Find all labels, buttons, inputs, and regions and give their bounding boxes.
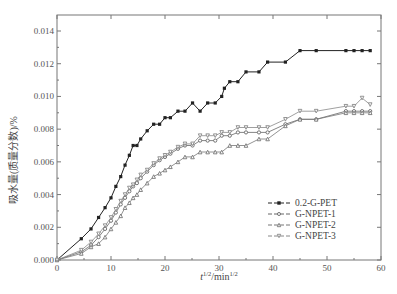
legend: 0.2-G-PETG-NPET-1G-NPET-2G-NPET-3 [268,198,337,241]
y-tick-label: 0.000 [34,255,55,265]
y-tick-label: 0.010 [34,91,55,101]
y-axis-title: 吸水量(质量分数)/% [7,116,20,204]
y-tick-label: 0.012 [34,59,54,69]
legend-item: G-NPET-3 [268,231,336,241]
x-tick-label: 40 [269,263,279,273]
x-tick-label: 50 [323,263,333,273]
legend-label: G-NPET-1 [295,209,336,219]
x-tick-label: 20 [161,263,171,273]
legend-item: G-NPET-1 [268,209,336,219]
x-tick-label: 60 [377,263,387,273]
y-tick-label: 0.008 [34,124,55,134]
x-axis-title: t1/2/min1/2 [200,270,238,282]
legend-item: G-NPET-2 [268,220,336,230]
y-tick-label: 0.006 [34,157,55,167]
y-tick-label: 0.004 [34,190,55,200]
y-tick-label: 0.002 [34,222,54,232]
legend-label: G-NPET-2 [295,220,336,230]
legend-label: 0.2-G-PET [295,198,337,208]
x-tick-label: 10 [107,263,117,273]
legend-label: G-NPET-3 [295,231,336,241]
x-tick-label: 0 [55,263,60,273]
chart: 0102030405060 0.0000.0020.0040.0060.0080… [0,0,397,294]
y-tick-label: 0.014 [34,26,55,36]
legend-item: 0.2-G-PET [268,198,337,208]
x-axis-ticks: 0102030405060 [55,15,386,273]
